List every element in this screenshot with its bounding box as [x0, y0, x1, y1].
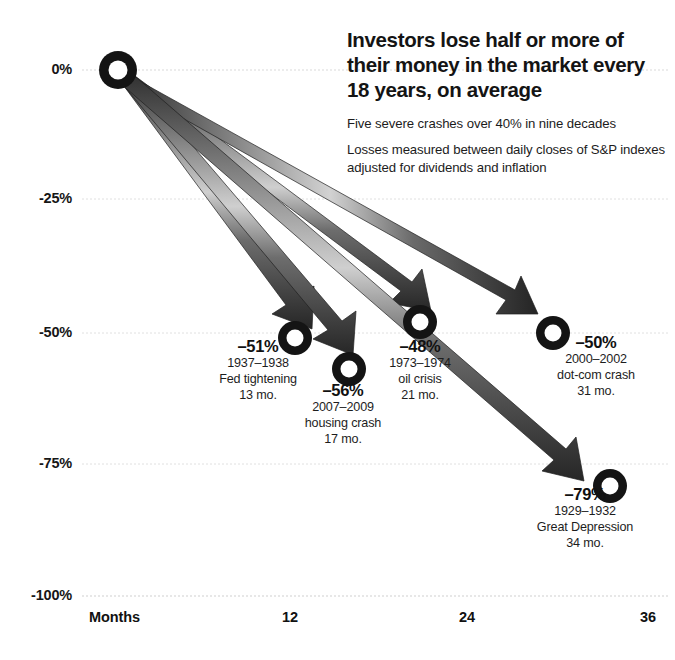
- annotation-pct: –48%: [345, 337, 495, 356]
- headline-block: Investors lose half or more of their mon…: [347, 27, 669, 177]
- annotation-cause: dot-com crash: [521, 368, 671, 384]
- annotation-duration: 34 mo.: [510, 536, 660, 552]
- annotation-years: 1937–1938: [183, 356, 333, 372]
- annotation-years: 1973–1974: [345, 356, 495, 372]
- y-tick-75: -75%: [2, 455, 72, 471]
- annotation-oil-crisis: –48% 1973–1974 oil crisis 21 mo.: [345, 337, 495, 404]
- annotation-pct: –79%: [510, 485, 660, 504]
- y-tick-25: -25%: [2, 190, 72, 206]
- page-title: Investors lose half or more of their mon…: [347, 27, 669, 102]
- annotation-cause: Great Depression: [510, 520, 660, 536]
- subtitle-secondary: Losses measured between daily closes of …: [347, 141, 669, 176]
- y-tick-100: -100%: [2, 587, 72, 603]
- annotation-duration: 21 mo.: [345, 388, 495, 404]
- x-tick-36: 36: [640, 609, 656, 625]
- annotation-duration: 17 mo.: [268, 432, 418, 448]
- annotation-great-depression: –79% 1929–1932 Great Depression 34 mo.: [510, 485, 660, 552]
- annotation-cause: oil crisis: [345, 372, 495, 388]
- annotation-years: 1929–1932: [510, 504, 660, 520]
- annotation-cause: housing crash: [268, 416, 418, 432]
- annotation-years: 2000–2002: [521, 352, 671, 368]
- annotation-duration: 31 mo.: [521, 384, 671, 400]
- marker-oil-crisis[interactable]: [403, 305, 437, 339]
- crash-chart: Investors lose half or more of their mon…: [0, 0, 675, 660]
- marker-origin[interactable]: [99, 51, 137, 89]
- x-tick-12: 12: [282, 609, 298, 625]
- x-tick-24: 24: [459, 609, 475, 625]
- y-tick-0: 0%: [2, 61, 72, 77]
- annotation-pct: –51%: [183, 337, 333, 356]
- x-axis-title: Months: [89, 609, 140, 625]
- subtitle-primary: Five severe crashes over 40% in nine dec…: [347, 115, 669, 132]
- y-tick-50: -50%: [2, 324, 72, 340]
- annotation-dotcom-crash: –50% 2000–2002 dot-com crash 31 mo.: [521, 333, 671, 400]
- annotation-pct: –50%: [521, 333, 671, 352]
